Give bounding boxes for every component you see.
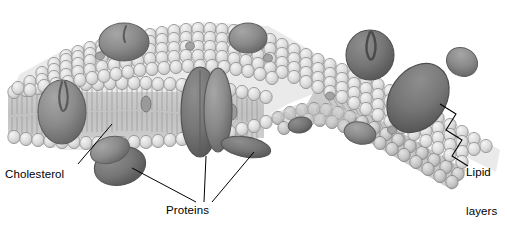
label-lipid-layers-line2: layers (466, 205, 497, 218)
integral-protein-left (38, 80, 86, 144)
surface-protein-top-right (229, 23, 267, 53)
surface-protein-far-right (441, 42, 483, 82)
integral-protein-fold (346, 30, 394, 80)
surface-protein-top-left (99, 23, 149, 61)
leader-protein-2 (204, 156, 206, 202)
leader-protein-1 (132, 168, 196, 202)
label-cholesterol: Cholesterol (5, 168, 64, 181)
membrane-illustration (0, 0, 507, 240)
label-lipid-layers: Lipid layers (466, 140, 497, 240)
label-lipid-layers-line1: Lipid (466, 166, 497, 179)
label-proteins: Proteins (166, 204, 209, 217)
membrane-diagram: Cholesterol Proteins Lipid layers (0, 0, 507, 240)
peripheral-protein-rod (220, 133, 273, 161)
leader-protein-3 (212, 152, 254, 202)
